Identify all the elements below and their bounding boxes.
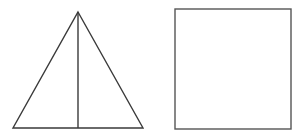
- geometry-figure-canvas: [0, 0, 300, 140]
